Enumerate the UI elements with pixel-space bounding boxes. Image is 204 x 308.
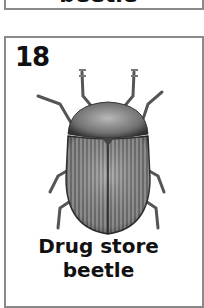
previous-card: beetle <box>4 0 204 10</box>
insect-name-line-2: beetle <box>6 258 191 282</box>
insect-name: Drug store beetle <box>6 234 191 282</box>
beetle-illustration-icon <box>10 58 190 248</box>
insect-card: 18 <box>4 36 204 308</box>
insect-name-line-1: Drug store <box>6 234 191 258</box>
previous-card-name: beetle <box>59 0 138 6</box>
previous-card-label: beetle <box>6 0 191 6</box>
